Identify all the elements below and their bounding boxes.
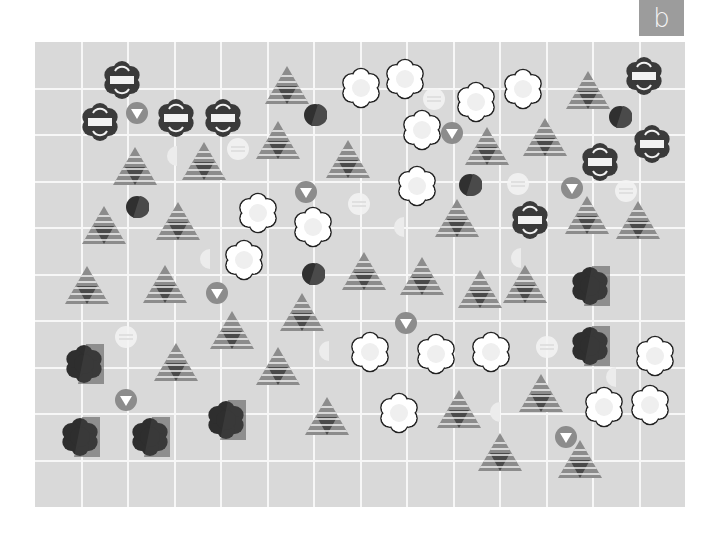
dark-circle-icon — [458, 173, 482, 197]
dark-flower-icon — [60, 417, 100, 457]
faint-half-moon-icon — [197, 247, 217, 271]
banded-dark-flower-icon — [510, 200, 550, 240]
dark-circle-icon — [608, 105, 632, 129]
down-arrow-circle-icon — [114, 388, 138, 412]
white-flower-icon — [583, 386, 625, 428]
white-flower-icon — [415, 333, 457, 375]
striped-triangle-icon — [254, 121, 302, 161]
dark-flower-icon — [130, 417, 170, 457]
down-arrow-circle-icon — [205, 281, 229, 305]
striped-triangle-icon — [278, 293, 326, 333]
white-flower-icon — [455, 81, 497, 123]
striped-triangle-icon — [154, 202, 202, 242]
white-flower-icon — [384, 58, 426, 100]
banded-dark-flower-icon — [624, 56, 664, 96]
pale-lined-circle-icon — [614, 179, 638, 203]
striped-triangle-icon — [340, 252, 388, 292]
white-flower-icon — [470, 331, 512, 373]
white-flower-icon — [378, 392, 420, 434]
white-flower-icon — [292, 206, 334, 248]
down-arrow-circle-icon — [394, 311, 418, 335]
game-board — [35, 42, 685, 507]
down-arrow-circle-icon — [294, 180, 318, 204]
banded-dark-flower-icon — [156, 98, 196, 138]
striped-triangle-icon — [563, 196, 611, 236]
striped-triangle-icon — [208, 311, 256, 351]
panel-label: b — [639, 0, 684, 36]
pale-lined-circle-icon — [347, 192, 371, 216]
pale-lined-circle-icon — [114, 325, 138, 349]
striped-triangle-icon — [476, 433, 524, 473]
striped-triangle-icon — [501, 265, 549, 305]
dark-circle-icon — [125, 195, 149, 219]
grid-line-horizontal — [35, 134, 685, 136]
pale-lined-circle-icon — [226, 137, 250, 161]
striped-triangle-icon — [254, 347, 302, 387]
striped-triangle-icon — [614, 201, 662, 241]
white-flower-icon — [396, 165, 438, 207]
white-flower-icon — [237, 192, 279, 234]
striped-triangle-icon — [398, 257, 446, 297]
striped-triangle-icon — [180, 142, 228, 182]
striped-triangle-icon — [517, 374, 565, 414]
white-flower-icon — [401, 109, 443, 151]
faint-half-moon-icon — [391, 215, 411, 239]
striped-triangle-icon — [433, 199, 481, 239]
striped-triangle-icon — [521, 118, 569, 158]
striped-triangle-icon — [111, 147, 159, 187]
down-arrow-circle-icon — [554, 425, 578, 449]
banded-dark-flower-icon — [203, 98, 243, 138]
grid-line-horizontal — [35, 320, 685, 322]
striped-triangle-icon — [463, 127, 511, 167]
banded-dark-flower-icon — [632, 124, 672, 164]
white-flower-icon — [502, 68, 544, 110]
dark-circle-icon — [301, 262, 325, 286]
white-flower-icon — [349, 331, 391, 373]
banded-dark-flower-icon — [580, 142, 620, 182]
striped-triangle-icon — [80, 206, 128, 246]
faint-half-moon-icon — [487, 400, 507, 424]
striped-triangle-icon — [152, 343, 200, 383]
pale-lined-circle-icon — [535, 335, 559, 359]
banded-dark-flower-icon — [80, 102, 120, 142]
dark-circle-icon — [303, 103, 327, 127]
white-flower-icon — [634, 335, 676, 377]
striped-triangle-icon — [63, 266, 111, 306]
striped-triangle-icon — [141, 265, 189, 305]
dark-flower-icon — [570, 326, 610, 366]
white-flower-icon — [223, 239, 265, 281]
banded-dark-flower-icon — [102, 60, 142, 100]
down-arrow-circle-icon — [440, 121, 464, 145]
striped-triangle-icon — [324, 140, 372, 180]
down-arrow-circle-icon — [125, 101, 149, 125]
white-flower-icon — [629, 384, 671, 426]
striped-triangle-icon — [564, 71, 612, 111]
dark-flower-icon — [64, 344, 104, 384]
striped-triangle-icon — [263, 66, 311, 106]
white-flower-icon — [340, 67, 382, 109]
dark-flower-icon — [570, 266, 610, 306]
striped-triangle-icon — [456, 270, 504, 310]
striped-triangle-icon — [303, 397, 351, 437]
faint-half-moon-icon — [316, 339, 336, 363]
dark-flower-icon — [206, 400, 246, 440]
striped-triangle-icon — [435, 390, 483, 430]
pale-lined-circle-icon — [506, 172, 530, 196]
